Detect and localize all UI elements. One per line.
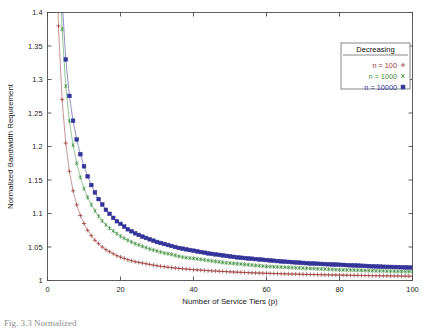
x-tick-label: 100 xyxy=(406,285,418,294)
x-tick-label: 40 xyxy=(189,285,197,294)
y-tick-label: 1.05 xyxy=(28,243,42,252)
series-1 xyxy=(55,0,414,274)
y-tick-label: 1.2 xyxy=(32,142,42,151)
series-0 xyxy=(55,0,415,278)
chart-legend: Decreasingn = 100n = 1000n = 10000 xyxy=(341,43,410,92)
y-axis-tick-labels: 11.051.11.151.21.251.31.351.4 xyxy=(28,8,42,285)
y-tick-label: 1.3 xyxy=(32,75,42,84)
y-tick-label: 1 xyxy=(38,276,42,285)
data-series-group xyxy=(55,0,415,278)
y-tick-label: 1.4 xyxy=(32,8,42,17)
x-axis-title: Number of Service Tiers (p) xyxy=(182,297,278,306)
x-tick-label: 80 xyxy=(335,285,343,294)
figure-container: 11.051.11.151.21.251.31.351.4 0204060801… xyxy=(0,0,430,328)
figure-caption: Fig. 3.3 Normalized xyxy=(4,317,77,328)
x-tick-label: 20 xyxy=(116,285,124,294)
y-tick-label: 1.1 xyxy=(32,209,42,218)
y-tick-label: 1.15 xyxy=(28,176,42,185)
legend-entry-label-0: n = 100 xyxy=(372,61,397,70)
x-axis-tick-labels: 020406080100 xyxy=(45,285,418,294)
chart-canvas: 11.051.11.151.21.251.31.351.4 0204060801… xyxy=(0,0,430,328)
legend-entry-label-1: n = 1000 xyxy=(368,72,397,81)
legend-entry-label-2: n = 10000 xyxy=(364,83,397,92)
legend-marker-square xyxy=(401,85,405,89)
x-tick-label: 0 xyxy=(45,285,49,294)
legend-title: Decreasing xyxy=(356,45,394,54)
y-tick-label: 1.25 xyxy=(28,109,42,118)
y-axis-title: Normalized Bandwidth Requirement xyxy=(6,83,15,209)
x-tick-label: 60 xyxy=(262,285,270,294)
y-tick-label: 1.35 xyxy=(28,42,42,51)
